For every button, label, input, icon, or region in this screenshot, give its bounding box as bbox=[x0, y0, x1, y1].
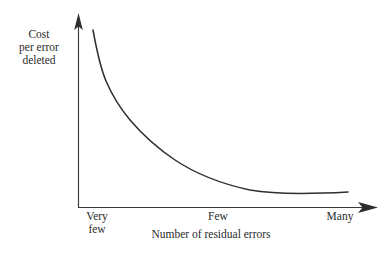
y-axis-label-line-1: Cost bbox=[8, 28, 70, 41]
x-axis-caption: Number of residual errors bbox=[106, 228, 316, 241]
cost-per-error-curve bbox=[93, 30, 348, 194]
chart-figure: Cost per error deleted Very few Few Many… bbox=[0, 0, 391, 255]
y-axis-label-line-2: per error bbox=[8, 41, 70, 54]
y-axis-label: Cost per error deleted bbox=[8, 28, 70, 67]
x-tick-label-few: Few bbox=[190, 210, 246, 223]
y-axis-label-line-3: deleted bbox=[8, 54, 70, 67]
x-tick-label-many: Many bbox=[312, 210, 368, 223]
x-tick-very-few-line-1: Very bbox=[68, 210, 126, 223]
